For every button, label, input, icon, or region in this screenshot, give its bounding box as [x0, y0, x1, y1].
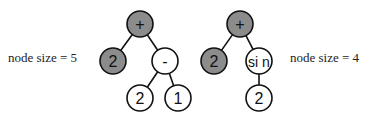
expression-tree-diagram: +2-21 node size = 5 +2si n2 node size = … — [0, 0, 372, 116]
tree-edge — [121, 35, 133, 51]
tree-node-rl: 2 — [127, 85, 153, 111]
tree-edge — [246, 36, 253, 50]
tree-edge — [147, 35, 157, 50]
tree-node-right: si n — [246, 48, 272, 74]
tree-node-size-4: +2si n2 node size = 4 — [201, 11, 360, 111]
tree-node-rc: 2 — [246, 85, 272, 111]
tree-node-right: - — [152, 48, 178, 74]
tree-nodes: +2-21 — [100, 11, 191, 111]
node-label: 2 — [109, 53, 118, 70]
tree-nodes: +2si n2 — [201, 11, 272, 111]
tree-node-left: 2 — [201, 48, 227, 74]
tree-node-size-5: +2-21 node size = 5 — [8, 11, 191, 111]
tree-node-left: 2 — [100, 48, 126, 74]
node-label: si n — [248, 54, 270, 70]
tree-label: node size = 4 — [290, 50, 360, 65]
node-label: 2 — [136, 90, 145, 107]
node-label: 1 — [174, 90, 183, 107]
tree-edge — [221, 35, 232, 51]
tree-label: node size = 5 — [8, 50, 77, 65]
tree-edge — [147, 72, 157, 87]
node-label: + — [235, 16, 244, 33]
tree-node-root: + — [227, 11, 253, 37]
node-label: 2 — [255, 90, 264, 107]
tree-node-rr: 1 — [165, 85, 191, 111]
node-label: - — [162, 53, 167, 70]
tree-node-root: + — [127, 11, 153, 37]
node-label: + — [135, 16, 144, 33]
tree-edge — [169, 73, 173, 85]
node-label: 2 — [210, 53, 219, 70]
